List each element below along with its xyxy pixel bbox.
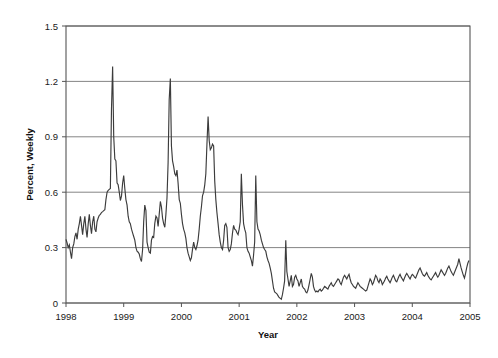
y-tick-label: 0.9	[45, 131, 58, 142]
y-tick-label: 0.3	[45, 242, 58, 253]
line-chart: 00.30.60.91.21.5 19981999200020012002200…	[0, 0, 498, 358]
x-tick-label: 2000	[171, 311, 192, 322]
y-tick-label: 0.6	[45, 187, 58, 198]
y-tick-label: 1.5	[45, 21, 58, 32]
y-tick-label: 1.2	[45, 76, 58, 87]
y-axis-title: Percent, Weekly	[24, 127, 35, 200]
x-tick-label: 2004	[402, 311, 423, 322]
chart-figure: 00.30.60.91.21.5 19981999200020012002200…	[0, 0, 498, 358]
x-axis-title: Year	[258, 329, 278, 340]
x-tick-label: 2002	[286, 311, 307, 322]
y-tick-label: 0	[53, 298, 58, 309]
x-tick-label: 2003	[344, 311, 365, 322]
x-tick-label: 1999	[113, 311, 134, 322]
x-tick-label: 2005	[459, 311, 480, 322]
x-tick-label: 1998	[55, 311, 76, 322]
x-tick-label: 2001	[229, 311, 250, 322]
